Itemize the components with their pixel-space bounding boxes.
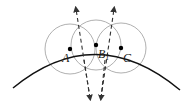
- arc-curve: [13, 54, 180, 90]
- points: [68, 43, 123, 51]
- point-c: [119, 46, 123, 50]
- diagram-canvas: A B1 C: [0, 0, 188, 106]
- label-c: C: [123, 51, 132, 65]
- label-a: A: [61, 51, 70, 65]
